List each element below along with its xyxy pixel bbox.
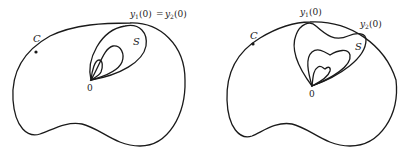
left-figure: C S 0 y 1 (0) = y 2 (0) — [13, 9, 187, 146]
diagram-canvas: C S 0 y 1 (0) = y 2 (0) C S 0 y 1 (0) y … — [0, 0, 407, 152]
left-point-on-c — [34, 50, 37, 53]
right-point-on-c — [251, 42, 254, 45]
right-label-point-y2: y 2 (0) — [359, 19, 382, 30]
svg-text:=: = — [156, 9, 164, 19]
right-label-origin: 0 — [309, 89, 315, 99]
right-label-point-y1: y 1 (0) — [299, 7, 322, 18]
right-label-c: C — [250, 30, 258, 41]
right-figure: C S 0 y 1 (0) y 2 (0) — [227, 7, 397, 146]
right-label-s: S — [355, 41, 362, 52]
svg-text:(0): (0) — [309, 7, 322, 17]
svg-text:(0): (0) — [369, 19, 382, 29]
left-region-s-boundary — [90, 25, 146, 80]
left-label-origin: 0 — [87, 83, 93, 93]
svg-text:(0): (0) — [139, 9, 152, 19]
left-label-coincident-points: y 1 (0) = y 2 (0) — [129, 9, 187, 20]
svg-text:(0): (0) — [174, 9, 187, 19]
left-label-c: C — [33, 33, 41, 44]
left-label-s: S — [133, 36, 140, 47]
